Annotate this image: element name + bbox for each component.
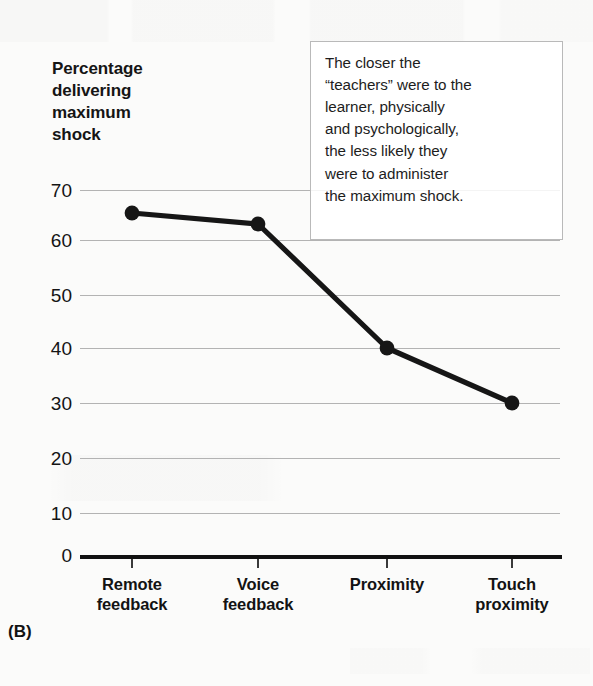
data-point-voice-feedback <box>251 217 266 232</box>
line-chart-panel-b: Percentage delivering maximum shock 70 6… <box>0 0 593 686</box>
x-axis-label-touch-proximity: Touch proximity <box>442 574 582 615</box>
annotation-text: The closer the “teachers” were to the le… <box>325 52 550 207</box>
data-point-touch-proximity <box>505 396 520 411</box>
x-axis-label-proximity: Proximity <box>317 574 457 594</box>
x-axis-line <box>80 555 562 559</box>
x-axis-label-remote-feedback: Remote feedback <box>62 574 202 615</box>
panel-letter-b: (B) <box>8 622 32 642</box>
x-tick-touch-proximity <box>511 559 513 568</box>
x-tick-remote-feedback <box>131 559 133 568</box>
x-tick-voice-feedback <box>257 559 259 568</box>
data-point-proximity <box>380 341 395 356</box>
data-point-remote-feedback <box>125 206 140 221</box>
annotation-callout-box: The closer the “teachers” were to the le… <box>310 41 563 240</box>
x-tick-proximity <box>386 559 388 568</box>
x-axis-label-voice-feedback: Voice feedback <box>188 574 328 615</box>
series-polyline <box>132 213 512 403</box>
